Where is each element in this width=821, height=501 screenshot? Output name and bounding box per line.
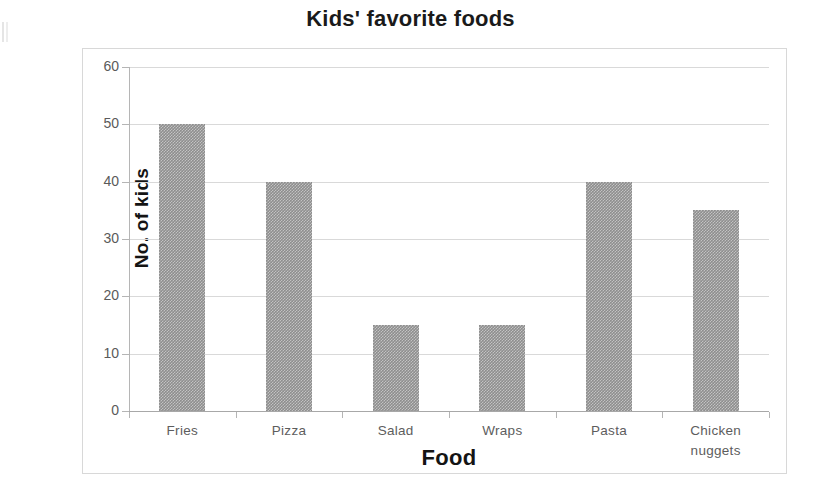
y-tick-mark-10	[122, 354, 129, 355]
chart-frame: No. of kids 6050403020100 FriesPizzaSala…	[82, 48, 787, 474]
x-category-label-salad: Salad	[343, 421, 449, 441]
x-tick-mark	[449, 412, 450, 418]
y-tick-mark-40	[122, 182, 129, 183]
x-tick-mark	[769, 412, 770, 418]
x-tick-mark	[129, 412, 130, 418]
bar-fries	[159, 124, 205, 411]
x-category-label-wraps: Wraps	[449, 421, 555, 441]
y-tick-mark-20	[122, 296, 129, 297]
y-tick-label: 60	[79, 59, 119, 73]
x-category-label-line: Wraps	[449, 421, 555, 441]
bar-salad	[373, 325, 419, 411]
x-tick-mark	[236, 412, 237, 418]
x-category-label-line: Chicken	[663, 421, 769, 441]
y-tick-label: 30	[79, 231, 119, 245]
x-category-label-line: Fries	[129, 421, 235, 441]
x-category-label-line: Pizza	[236, 421, 342, 441]
bar-pasta	[586, 182, 632, 411]
y-tick-label: 0	[79, 403, 119, 417]
bars-group	[129, 67, 769, 411]
bar-pizza	[266, 182, 312, 411]
y-tick-label: 50	[79, 116, 119, 130]
x-tick-mark	[556, 412, 557, 418]
bar-wraps	[479, 325, 525, 411]
x-tick-mark	[662, 412, 663, 418]
x-category-label-pasta: Pasta	[556, 421, 662, 441]
bar-chicken-nuggets	[693, 210, 739, 411]
x-category-label-line: Salad	[343, 421, 449, 441]
x-category-label-line: Pasta	[556, 421, 662, 441]
y-tick-label: 10	[79, 346, 119, 360]
x-category-label-pizza: Pizza	[236, 421, 342, 441]
y-tick-label: 20	[79, 288, 119, 302]
y-tick-label: 40	[79, 174, 119, 188]
x-category-label-fries: Fries	[129, 421, 235, 441]
y-tick-mark-60	[122, 67, 129, 68]
chart-title: Kids' favorite foods	[0, 6, 821, 32]
y-tick-mark-0	[122, 411, 129, 412]
x-tick-mark	[342, 412, 343, 418]
y-tick-mark-30	[122, 239, 129, 240]
y-tick-mark-50	[122, 124, 129, 125]
x-axis-title: Food	[129, 445, 769, 471]
